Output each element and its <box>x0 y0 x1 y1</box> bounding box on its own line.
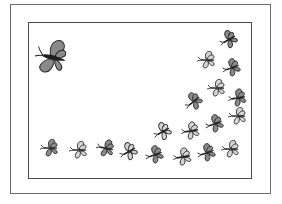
butterfly-swarm <box>40 28 246 166</box>
butterfly-icon <box>172 147 192 166</box>
butterfly-icon <box>220 57 242 78</box>
butterfly-scene <box>0 0 282 204</box>
butterfly-icon <box>227 88 247 107</box>
butterfly-icon <box>143 144 165 165</box>
butterfly-icon <box>180 121 200 140</box>
butterfly-icon <box>197 51 214 68</box>
butterfly-icon <box>181 90 205 114</box>
butterfly-icon <box>40 139 57 156</box>
butterfly-icon <box>203 113 225 134</box>
butterfly-icon <box>207 79 224 96</box>
butterfly-icon <box>195 142 217 163</box>
butterfly-icon <box>228 107 245 124</box>
butterfly-icon <box>150 120 173 143</box>
butterfly-icon <box>221 140 238 157</box>
butterfly-icon <box>95 138 115 157</box>
butterfly-icon <box>116 140 139 163</box>
large-butterfly-icon <box>32 37 68 76</box>
butterfly-icon <box>69 141 86 158</box>
butterfly-icon <box>216 28 239 51</box>
